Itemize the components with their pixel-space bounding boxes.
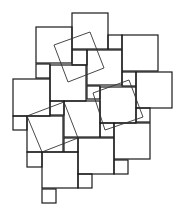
small-square bbox=[42, 189, 56, 203]
small-square bbox=[64, 138, 78, 152]
large-square bbox=[64, 101, 100, 137]
rotated-square bbox=[54, 32, 104, 82]
pythagorean-tiling-diagram bbox=[0, 0, 182, 216]
small-square bbox=[136, 108, 150, 122]
large-square bbox=[42, 152, 78, 188]
small-square bbox=[114, 160, 128, 174]
small-square bbox=[78, 174, 92, 188]
small-squares-group bbox=[13, 35, 150, 203]
small-square bbox=[100, 123, 114, 137]
large-square bbox=[13, 79, 50, 116]
large-square bbox=[114, 123, 150, 159]
rotated-square bbox=[27, 102, 78, 152]
large-square bbox=[72, 13, 108, 49]
small-square bbox=[108, 35, 122, 49]
large-square bbox=[122, 35, 158, 71]
small-square bbox=[27, 152, 42, 167]
large-square bbox=[78, 138, 114, 174]
small-square bbox=[36, 64, 50, 78]
small-square bbox=[122, 72, 136, 86]
large-square bbox=[136, 72, 172, 108]
large-square bbox=[50, 65, 86, 101]
large-square bbox=[87, 50, 122, 85]
large-square bbox=[100, 87, 136, 123]
large-square bbox=[27, 116, 63, 152]
small-square bbox=[72, 50, 87, 65]
small-square bbox=[13, 116, 27, 130]
